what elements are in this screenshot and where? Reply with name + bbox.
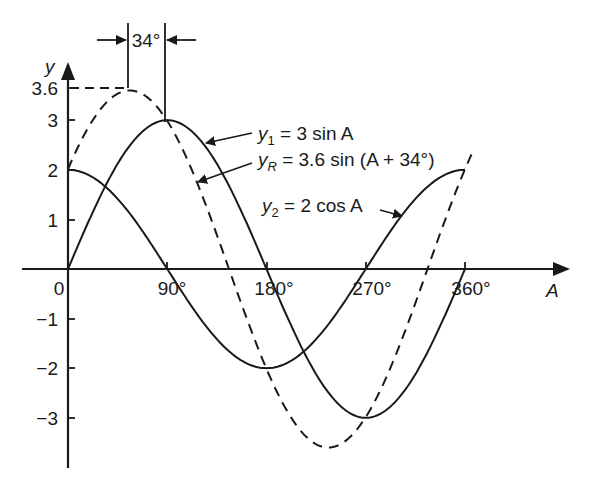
phase-label: 34°: [132, 30, 161, 51]
y-tick-label: −3: [36, 408, 58, 429]
y-tick-label: −1: [36, 309, 58, 330]
legend-y1: y1 = 3 sin A: [206, 123, 354, 148]
y-axis-arrow-icon: [61, 62, 75, 80]
arrow-left-icon: [166, 35, 177, 45]
y-tick-label: 3: [47, 110, 58, 131]
y-tick-label: 3.6: [32, 78, 58, 99]
y-tick-label: −2: [36, 358, 58, 379]
y-axis-label: y: [43, 56, 56, 77]
legend-label-y1: y1 = 3 sin A: [256, 123, 354, 148]
x-axis-label: A: [545, 280, 559, 301]
x-tick-label: 0: [54, 278, 65, 299]
arrow-right-icon: [116, 35, 127, 45]
y-tick-labels: 3.6 3 2 1 −1 −2 −3: [32, 78, 58, 429]
sine-wave-chart: 3.6 3 2 1 −1 −2 −3 0 90° 180° 270° 360° …: [0, 0, 589, 495]
x-tick-label: 90°: [158, 278, 187, 299]
x-axis-arrow-icon: [553, 262, 570, 276]
y-tick-label: 2: [47, 160, 58, 181]
legend-label-yR: yR = 3.6 sin (A + 34°): [256, 149, 434, 174]
legend-yR: yR = 3.6 sin (A + 34°): [198, 149, 434, 182]
y-tick-label: 1: [47, 210, 58, 231]
legend-y2: y2 = 2 cos A: [260, 195, 402, 220]
legend-label-y2: y2 = 2 cos A: [260, 195, 363, 220]
